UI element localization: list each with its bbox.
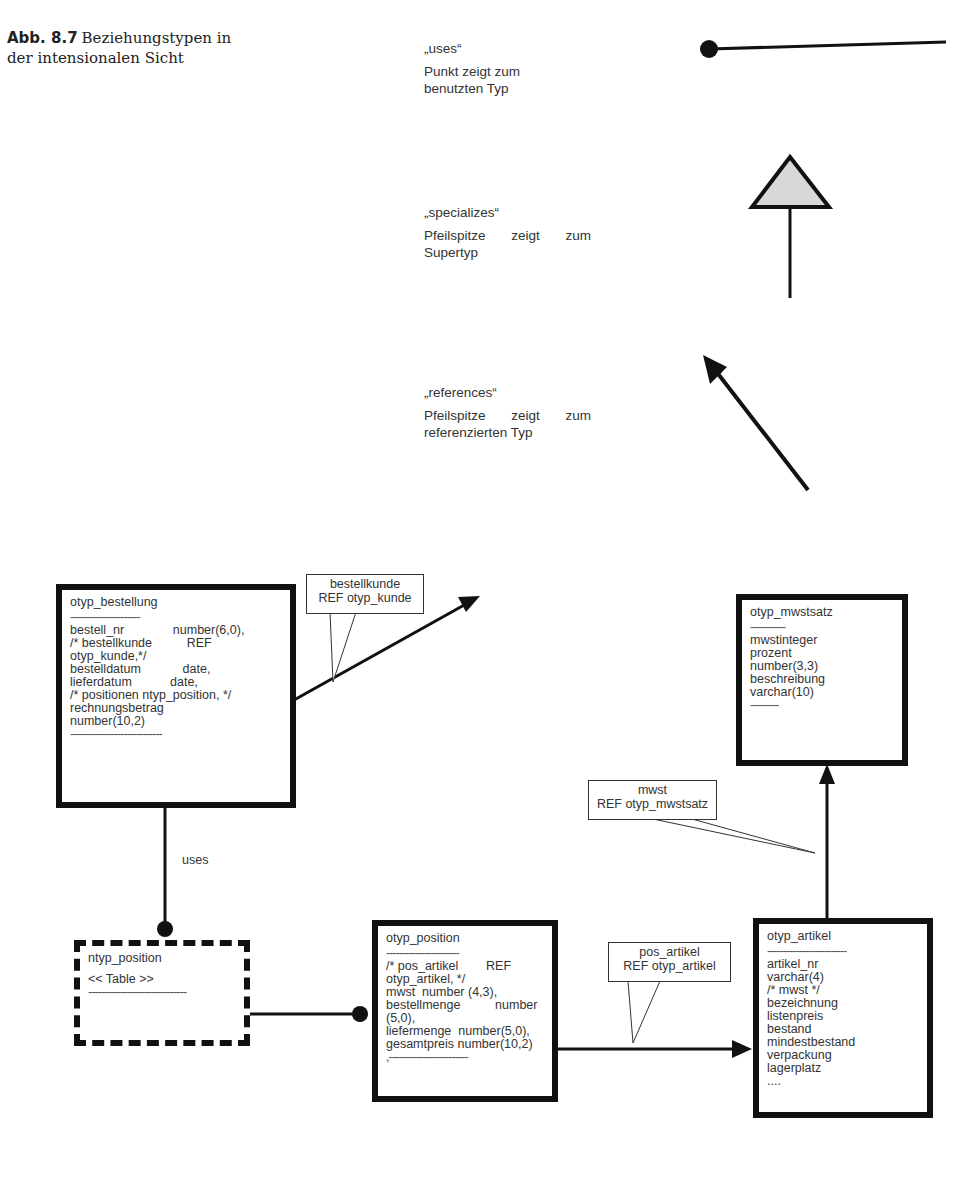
- type-title: otyp_bestellung: [70, 596, 282, 609]
- legend-uses-symbol: [700, 40, 946, 58]
- attribute-row: ....: [767, 1075, 919, 1088]
- edge-uses-bestellung-ntyp: [157, 806, 173, 937]
- attribute-row: varchar(10): [750, 686, 894, 699]
- legend-references-symbol: [703, 355, 808, 490]
- type-title: otyp_mwstsatz: [750, 606, 894, 619]
- edge-mwst: [819, 764, 835, 918]
- callout-bestellkunde-line-1: bestellkunde: [313, 577, 417, 591]
- edge-pos-artikel: [556, 1040, 752, 1058]
- stereotype-label: << Table >>: [88, 973, 236, 986]
- callout-mwst-line-2: REF otyp_mwstsatz: [595, 797, 710, 811]
- edge-uses-ntyp-position: [248, 1006, 368, 1022]
- type-box-otyp-position: otyp_position ----------------------- /*…: [372, 920, 558, 1102]
- attribute-row: gesamtpreis number(10,2): [386, 1038, 544, 1051]
- separator: ,-------------------------: [386, 1051, 544, 1064]
- type-box-ntyp-position: ntyp_position << Table >> --------------…: [74, 940, 250, 1046]
- type-title: otyp_position: [386, 932, 544, 945]
- separator: -----------------------------: [70, 728, 282, 741]
- type-box-otyp-mwstsatz: otyp_mwstsatz ----------- mwstinteger pr…: [736, 594, 908, 766]
- attribute-row: number(10,2): [70, 715, 282, 728]
- callout-mwst: mwst REF otyp_mwstsatz: [588, 780, 717, 820]
- callout-mwst-line-1: mwst: [595, 783, 710, 797]
- type-title: ntyp_position: [88, 952, 236, 965]
- attribute-row: lagerplatz: [767, 1062, 919, 1075]
- callout-bestellkunde-line-2: REF otyp_kunde: [313, 591, 417, 605]
- separator: -------------------------------: [88, 986, 236, 999]
- separator: ---------: [750, 699, 894, 712]
- legend-specializes-symbol: [752, 157, 829, 298]
- callout-pos-artikel-line-1: pos_artikel: [615, 945, 724, 959]
- callout-pos-artikel: pos_artikel REF otyp_artikel: [608, 942, 731, 982]
- edge-label-uses: uses: [182, 853, 208, 867]
- callout-pos-artikel-line-2: REF otyp_artikel: [615, 959, 724, 973]
- type-box-otyp-bestellung: otyp_bestellung ---------------------- b…: [56, 584, 296, 808]
- callout-bestellkunde: bestellkunde REF otyp_kunde: [306, 574, 424, 614]
- type-title: otyp_artikel: [767, 930, 919, 943]
- type-box-otyp-artikel: otyp_artikel ------------------------- a…: [753, 918, 933, 1118]
